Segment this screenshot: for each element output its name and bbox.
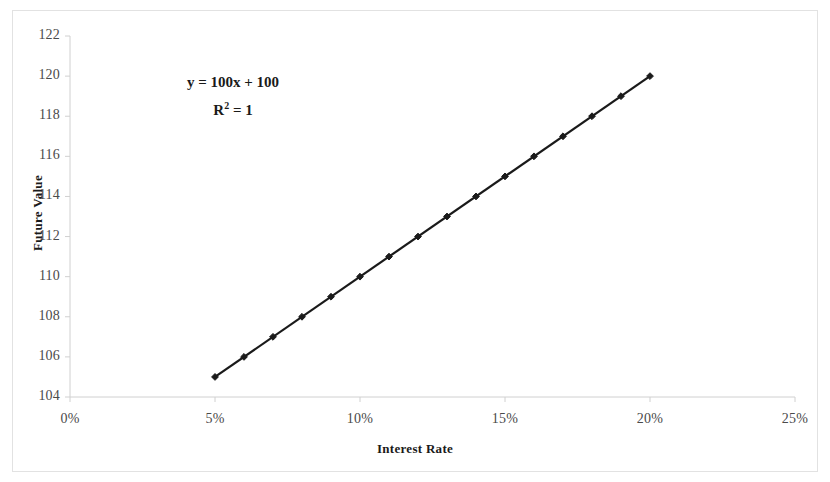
x-axis-tick-label: 10%: [330, 411, 390, 427]
x-axis-title: Interest Rate: [0, 441, 830, 457]
y-axis-tick-label: 106: [16, 348, 60, 364]
r-squared-exponent: 2: [224, 100, 229, 111]
trendline-r-squared: R2 = 1: [148, 94, 318, 122]
y-axis-tick-label: 108: [16, 308, 60, 324]
x-axis-tick-label: 25%: [765, 411, 825, 427]
y-axis-tick-label: 104: [16, 388, 60, 404]
y-axis-tick-label: 122: [16, 27, 60, 43]
y-axis-tick-label: 118: [16, 107, 60, 123]
x-axis-tick-label: 5%: [185, 411, 245, 427]
chart-plot-area: [0, 0, 830, 482]
r-squared-value: = 1: [233, 102, 253, 118]
x-axis-tick-label: 15%: [475, 411, 535, 427]
x-axis-tick-label: 0%: [40, 411, 100, 427]
x-axis-tick-label: 20%: [620, 411, 680, 427]
trendline-annotation: y = 100x + 100 R2 = 1: [148, 70, 318, 122]
trendline-equation: y = 100x + 100: [148, 70, 318, 94]
r-squared-symbol: R: [213, 102, 224, 118]
y-axis-title: Future Value: [30, 153, 46, 273]
y-axis-tick-label: 120: [16, 67, 60, 83]
